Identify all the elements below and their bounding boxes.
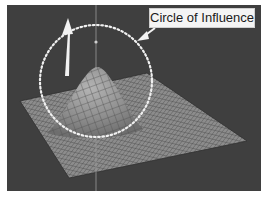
circle-of-influence-label: Circle of Influence (149, 8, 255, 28)
upward-white-arrow (62, 18, 73, 76)
callout-arrow-icon (137, 28, 155, 41)
pivot-marker-icon (94, 40, 97, 43)
figure-frame: Circle of Influence (0, 0, 271, 198)
3d-viewport: Circle of Influence (7, 5, 261, 191)
scene-graphic (7, 5, 261, 191)
